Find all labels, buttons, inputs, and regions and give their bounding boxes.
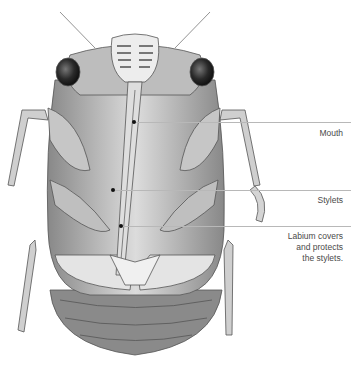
stylets-leader-line: [113, 190, 351, 191]
stylets-label: Stylets: [317, 195, 343, 206]
labium-label-line-1: Labium covers: [288, 231, 343, 242]
labium-label-line-3: the stylets.: [288, 253, 343, 264]
labium-leader-line: [121, 226, 351, 227]
labium-marker: [119, 224, 123, 228]
mouth-label: Mouth: [319, 128, 343, 139]
labium-label-line-2: and protects: [288, 242, 343, 253]
labium-label: Labium covers and protects the stylets.: [288, 231, 343, 264]
mouth-leader-line: [134, 122, 351, 123]
mouth-marker: [132, 120, 136, 124]
stylets-marker: [111, 188, 115, 192]
cicada-illustration: [0, 0, 351, 367]
